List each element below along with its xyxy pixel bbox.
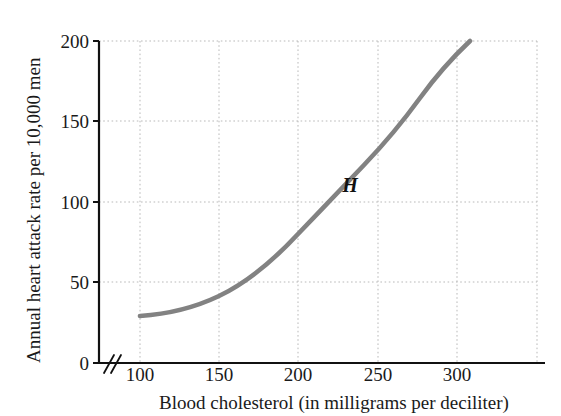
y-tick-label-150: 150	[61, 111, 90, 132]
x-axis-title: Blood cholesterol (in milligrams per dec…	[159, 392, 509, 414]
y-tick-label-200: 200	[61, 31, 90, 52]
x-tick-label-150: 150	[205, 364, 234, 385]
y-tick-label-50: 50	[70, 272, 89, 293]
curve-label-h: H	[341, 174, 359, 196]
y-tick-label-100: 100	[61, 192, 90, 213]
chart-figure: 200 150 100 50 0 100 150 200 250 300 H A…	[0, 0, 561, 416]
x-tick-label-100: 100	[126, 364, 155, 385]
chart-canvas: 200 150 100 50 0 100 150 200 250 300 H A…	[0, 0, 561, 416]
y-axis-title: Annual heart attack rate per 10,000 men	[23, 57, 44, 363]
x-tick-label-250: 250	[364, 364, 393, 385]
x-tick-label-300: 300	[443, 364, 472, 385]
x-tick-label-200: 200	[284, 364, 313, 385]
y-tick-label-0: 0	[80, 353, 90, 374]
